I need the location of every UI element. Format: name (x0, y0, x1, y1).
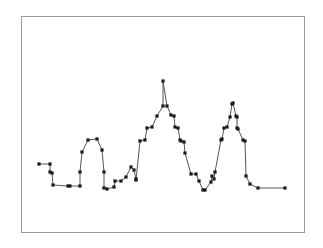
data-point-marker (134, 178, 137, 181)
data-point-marker (155, 114, 158, 117)
data-point-marker (189, 172, 192, 175)
data-point-marker (132, 168, 135, 171)
data-point-marker (86, 138, 89, 141)
data-point-marker (100, 148, 103, 151)
data-point-marker (80, 150, 83, 153)
data-point-marker (169, 113, 172, 116)
data-point-marker (165, 104, 168, 107)
data-point-marker (182, 140, 185, 143)
data-point-marker (283, 186, 286, 189)
data-point-marker (176, 126, 179, 129)
data-point-marker (243, 139, 246, 142)
series-markers-group (37, 79, 286, 191)
data-point-marker (119, 179, 122, 182)
chart-canvas (0, 0, 323, 248)
data-point-marker (138, 139, 141, 142)
data-point-marker (102, 186, 105, 189)
data-point-marker (68, 184, 71, 187)
data-point-marker (51, 183, 54, 186)
data-point-marker (78, 184, 81, 187)
data-point-marker (236, 127, 239, 130)
data-point-marker (244, 174, 247, 177)
data-point-marker (161, 104, 164, 107)
data-point-marker (194, 172, 197, 175)
data-point-marker (248, 182, 251, 185)
data-point-marker (102, 170, 105, 173)
data-point-marker (212, 177, 215, 180)
data-point-marker (112, 185, 115, 188)
data-point-marker (48, 162, 51, 165)
line-chart-svg (0, 0, 323, 248)
data-point-marker (105, 187, 108, 190)
data-point-marker (203, 188, 206, 191)
chart-series-group (37, 79, 286, 191)
data-point-marker (197, 179, 200, 182)
data-point-marker (210, 174, 213, 177)
data-point-marker (113, 179, 116, 182)
data-point-marker (213, 170, 216, 173)
data-point-marker (222, 126, 225, 129)
data-point-marker (150, 125, 153, 128)
data-point-marker (231, 101, 234, 104)
data-point-marker (173, 125, 176, 128)
data-point-marker (235, 115, 238, 118)
data-point-marker (183, 151, 186, 154)
series-line-silhouette-profile (39, 81, 285, 190)
data-point-marker (124, 175, 127, 178)
data-point-marker (78, 170, 81, 173)
data-point-marker (172, 114, 175, 117)
data-point-marker (50, 171, 53, 174)
data-point-marker (225, 125, 228, 128)
data-point-marker (179, 139, 182, 142)
data-point-marker (228, 115, 231, 118)
data-point-marker (37, 162, 40, 165)
data-point-marker (145, 126, 148, 129)
data-point-marker (129, 165, 132, 168)
data-point-marker (209, 180, 212, 183)
data-point-marker (161, 79, 164, 82)
data-point-marker (95, 137, 98, 140)
data-point-marker (143, 138, 146, 141)
data-point-marker (220, 137, 223, 140)
data-point-marker (256, 186, 259, 189)
